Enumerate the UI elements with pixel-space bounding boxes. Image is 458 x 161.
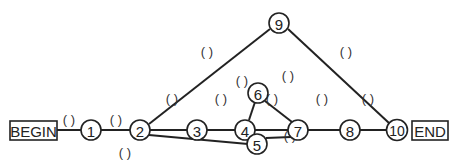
network-diagram: ( ) ( ) ( ) ( ) ( ) ( ) ( ) ( ) ( ) ( ) … (0, 0, 458, 161)
node-9: 9 (269, 13, 289, 33)
edge-labels: ( ) ( ) ( ) ( ) ( ) ( ) ( ) ( ) ( ) ( ) … (63, 44, 374, 160)
node-3-label: 3 (193, 123, 201, 140)
edge-label-9-10: ( ) (340, 44, 352, 59)
edge-label-1-2: ( ) (110, 112, 122, 127)
node-2-label: 2 (136, 123, 144, 140)
edge-label-4-6: ( ) (236, 73, 248, 88)
end-label: END (414, 123, 446, 140)
node-6: 6 (248, 83, 268, 103)
edge-label-2-9: ( ) (201, 44, 213, 59)
node-5: 5 (247, 134, 267, 154)
edge-label-begin-1: ( ) (63, 112, 75, 127)
edge-label-3-4: ( ) (215, 91, 227, 106)
node-7: 7 (288, 120, 308, 140)
edge-4-6 (249, 102, 255, 120)
edge-label-6-7: ( ) (282, 68, 294, 83)
end-box: END (412, 121, 448, 140)
begin-box: BEGIN (10, 121, 57, 140)
node-9-label: 9 (275, 16, 283, 33)
node-5-label: 5 (253, 137, 261, 154)
node-4-label: 4 (241, 123, 249, 140)
node-8: 8 (340, 120, 360, 140)
node-3: 3 (187, 120, 207, 140)
node-1: 1 (81, 120, 101, 140)
node-8-label: 8 (346, 123, 354, 140)
node-6-label: 6 (254, 86, 262, 103)
edge-label-2-3: ( ) (166, 91, 178, 106)
node-2: 2 (130, 120, 150, 140)
node-7-label: 7 (294, 123, 302, 140)
edge-label-2-5: ( ) (119, 145, 131, 160)
node-10-label: 10 (389, 123, 405, 139)
node-10: 10 (387, 120, 408, 141)
edge-9-10 (288, 29, 389, 123)
begin-label: BEGIN (10, 123, 57, 140)
edge-label-8-10: ( ) (362, 91, 374, 106)
node-1-label: 1 (87, 123, 95, 140)
edge-label-7-8: ( ) (316, 91, 328, 106)
